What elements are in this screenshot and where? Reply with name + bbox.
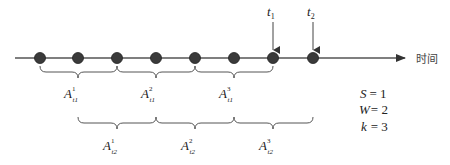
label-base: A	[63, 86, 72, 101]
timeline-diagram: 时间 t1 t2 A1t1 A2t1 A3t1 A1t2 A2t2	[0, 0, 450, 165]
data-point	[151, 53, 162, 64]
label-sup: 3	[267, 137, 271, 145]
brace-icon	[40, 66, 117, 78]
data-point	[73, 53, 84, 64]
data-point	[268, 53, 279, 64]
param-value: = 1	[370, 86, 387, 101]
svg-text:A3t1: A3t1	[218, 85, 233, 104]
svg-text:k= 3: k= 3	[361, 119, 388, 134]
param-value: = 3	[371, 119, 388, 134]
time-axis-label: 时间	[416, 53, 438, 66]
time-marker-t1: t1	[267, 4, 275, 50]
parameter-list: S= 1 W= 2 k= 3	[359, 86, 388, 134]
brace-icon	[156, 117, 234, 129]
labels-t2: A1t2 A2t2 A3t2	[102, 137, 273, 156]
brace-row-t2	[78, 117, 313, 129]
svg-text:t2: t2	[307, 4, 315, 21]
label-sup: 1	[72, 85, 76, 93]
param-value: = 2	[371, 102, 388, 117]
svg-text:A1t2: A1t2	[102, 137, 117, 156]
label-sup: 2	[189, 137, 193, 145]
label-sub: t1	[227, 96, 232, 104]
label-base: A	[180, 138, 189, 153]
time-marker-t2: t2	[307, 4, 315, 50]
brace-icon	[117, 66, 195, 78]
svg-text:S= 1: S= 1	[360, 86, 387, 101]
brace-icon	[78, 117, 156, 129]
label-sub: t2	[189, 148, 195, 156]
svg-text:W= 2: W= 2	[359, 102, 388, 117]
svg-text:A1t1: A1t1	[63, 85, 78, 104]
label-base: A	[140, 86, 149, 101]
label-sup: 3	[227, 85, 231, 93]
label-base: A	[218, 86, 227, 101]
t2-sub: 2	[311, 12, 315, 21]
label-sub: t1	[72, 96, 77, 104]
svg-text:t1: t1	[267, 4, 275, 21]
data-point	[229, 53, 240, 64]
label-sup: 2	[149, 85, 153, 93]
svg-text:A2t2: A2t2	[180, 137, 195, 156]
label-sub: t2	[267, 148, 273, 156]
data-point	[112, 53, 123, 64]
brace-icon	[234, 117, 313, 129]
label-base: A	[102, 138, 111, 153]
svg-text:A3t2: A3t2	[258, 137, 273, 156]
label-sub: t2	[111, 148, 117, 156]
label-base: A	[258, 138, 267, 153]
label-sup: 1	[111, 137, 115, 145]
param-name: S	[360, 86, 367, 101]
data-point	[35, 53, 46, 64]
label-sub: t1	[149, 96, 154, 104]
data-point	[308, 53, 319, 64]
param-name: W	[359, 102, 371, 117]
t1-sub: 1	[271, 12, 275, 21]
data-point	[190, 53, 201, 64]
labels-t1: A1t1 A2t1 A3t1	[63, 85, 233, 104]
brace-icon	[195, 66, 273, 78]
svg-text:A2t1: A2t1	[140, 85, 155, 104]
brace-row-t1	[40, 66, 273, 78]
param-name: k	[361, 119, 367, 134]
